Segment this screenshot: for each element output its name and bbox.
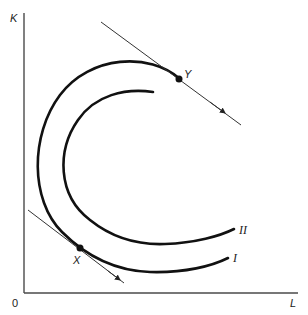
point-x-label: X [72, 254, 81, 266]
origin-label: 0 [12, 297, 18, 309]
isoquant-curve-inner [63, 91, 234, 244]
point-y-marker [176, 76, 183, 83]
point-y-label: Y [184, 68, 192, 80]
curve-label-outer: I [232, 251, 238, 265]
y-axis-label: K [10, 12, 18, 24]
isoquant-diagram: K 0 L Y X II I [0, 0, 308, 315]
tangent-arrow-y [210, 102, 225, 113]
curve-label-inner: II [238, 223, 248, 237]
x-axis-label: L [290, 297, 296, 309]
tangent-arrow-x [108, 271, 120, 280]
point-x-marker [77, 245, 84, 252]
